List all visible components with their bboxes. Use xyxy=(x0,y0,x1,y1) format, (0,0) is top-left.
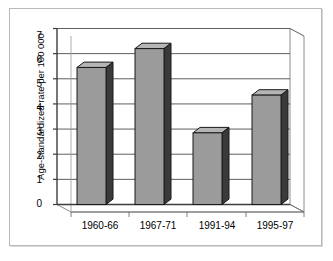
x-tick-label-1960-66: 1960-66 xyxy=(82,220,119,231)
x-axis-tick-labels: 1960-66 1967-71 1991-94 1995-97 xyxy=(10,9,323,247)
x-tick-label-1991-94: 1991-94 xyxy=(199,220,236,231)
x-tick-label-1995-97: 1995-97 xyxy=(257,220,294,231)
chart-figure-frame: Age-standardized rate per 100 000 7 6 5 … xyxy=(9,8,322,246)
x-tick-label-1967-71: 1967-71 xyxy=(140,220,177,231)
bar-chart[interactable]: Age-standardized rate per 100 000 7 6 5 … xyxy=(10,9,323,247)
